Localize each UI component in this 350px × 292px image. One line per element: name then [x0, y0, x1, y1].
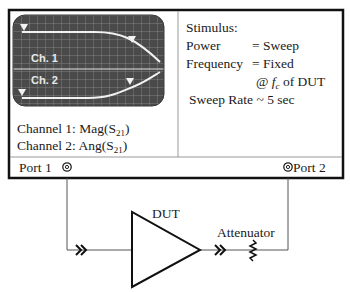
port2-label: Port 2 [293, 160, 326, 175]
port2-connector-icon [284, 163, 292, 171]
stimulus-title: Stimulus: [186, 20, 238, 35]
stimulus-sweep-rate: Sweep Rate ~ 5 sec [189, 92, 295, 107]
channel2-definition: Channel 2: Ang(S21) [17, 138, 127, 153]
channel1-definition: Channel 1: Mag(S21) [17, 121, 130, 136]
screen-ch2-label: Ch. 2 [31, 74, 58, 86]
stimulus-fc-note: @ fc of DUT [256, 74, 325, 89]
cable-port1 [67, 178, 131, 250]
screen-ch1-label: Ch. 1 [31, 52, 58, 64]
port1-connector-icon [63, 163, 71, 171]
stimulus-frequency-value: = Fixed [252, 56, 294, 71]
stimulus-frequency-label: Frequency [186, 56, 243, 71]
stimulus-power-value: = Sweep [252, 38, 299, 53]
dut-amplifier-icon [132, 212, 200, 287]
stimulus-power-label: Power [186, 38, 221, 53]
dut-label: DUT [152, 206, 180, 221]
port1-label: Port 1 [19, 160, 52, 175]
attenuator-label: Attenuator [217, 225, 275, 240]
